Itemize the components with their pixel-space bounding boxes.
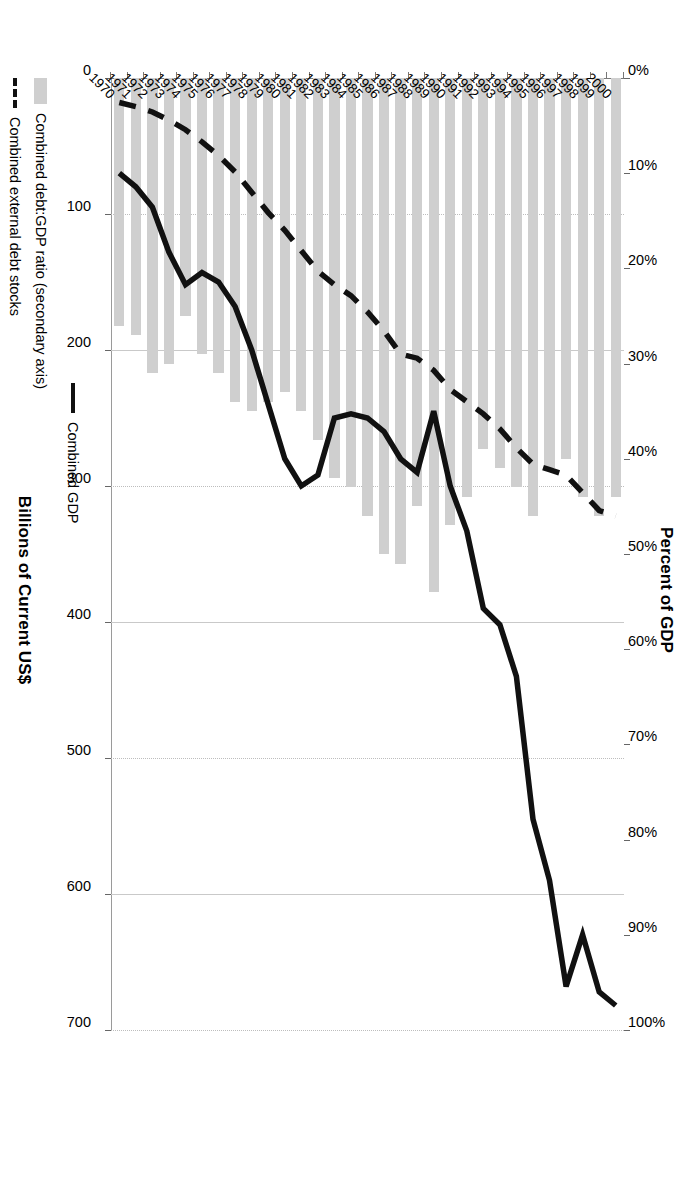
category-tick — [623, 72, 624, 78]
legend-label: Combined debt:GDP ratio (secondary axis) — [33, 113, 49, 389]
legend-item[interactable]: Combined debt:GDP ratio (secondary axis) — [33, 78, 50, 389]
grid-line — [111, 1030, 624, 1032]
category-tick — [606, 72, 607, 78]
axis-tick — [105, 622, 111, 623]
solid-line-swatch — [71, 383, 75, 413]
legend-label: Combined external debt stocks — [7, 117, 23, 316]
axis-tick — [624, 78, 630, 79]
primary-tick-label: 100 — [67, 198, 91, 214]
secondary-tick-label: 90% — [628, 919, 657, 935]
axis-tick — [624, 173, 630, 174]
line-series-layer — [111, 78, 624, 1030]
secondary-tick-label: 80% — [628, 824, 657, 840]
axis-tick — [624, 744, 630, 745]
axis-tick — [105, 1030, 111, 1031]
secondary-tick-label: 60% — [628, 633, 657, 649]
primary-tick-label: 200 — [67, 334, 91, 350]
secondary-tick-label: 20% — [628, 252, 657, 268]
primary-tick-label: 500 — [67, 742, 91, 758]
axis-tick — [105, 350, 111, 351]
legend-item[interactable]: Combined external debt stocks — [7, 78, 24, 316]
axis-tick — [624, 268, 630, 269]
secondary-tick-label: 30% — [628, 348, 657, 364]
chart-page: Billions of Current US$ Percent of GDP 0… — [0, 0, 682, 1180]
axis-tick — [105, 214, 111, 215]
primary-tick-label: 600 — [67, 878, 91, 894]
rotated-chart-frame: Billions of Current US$ Percent of GDP 0… — [0, 0, 682, 1180]
chart-canvas: Billions of Current US$ Percent of GDP 0… — [0, 0, 682, 1180]
dashed-line-swatch — [13, 78, 17, 108]
secondary-tick-label: 100% — [628, 1014, 665, 1030]
axis-tick — [624, 649, 630, 650]
axis-tick — [624, 1030, 630, 1031]
axis-tick — [105, 486, 111, 487]
gray-bar-swatch — [34, 78, 47, 104]
secondary-tick-label: 50% — [628, 538, 657, 554]
legend-label: Combined GDP — [65, 422, 81, 524]
plot-area — [111, 78, 624, 1030]
secondary-axis-title: Percent of GDP — [656, 0, 676, 1180]
legend-item[interactable]: Combined GDP — [65, 383, 82, 524]
primary-tick-label: 400 — [67, 606, 91, 622]
primary-tick-label: 700 — [67, 1014, 91, 1030]
secondary-tick-label: 40% — [628, 443, 657, 459]
secondary-tick-label: 0% — [628, 62, 649, 78]
axis-tick — [624, 554, 630, 555]
axis-tick — [105, 758, 111, 759]
secondary-tick-label: 10% — [628, 157, 657, 173]
combined-external-debt-stocks-line — [119, 103, 615, 516]
axis-tick — [105, 894, 111, 895]
combined-gdp-line — [119, 173, 615, 1005]
secondary-tick-label: 70% — [628, 728, 657, 744]
